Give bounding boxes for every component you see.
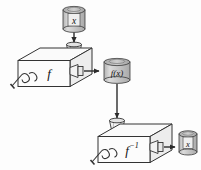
intermediate-canister-label: f(x)	[111, 68, 124, 78]
input-canister-label: x	[71, 16, 77, 26]
output-nozzle-inverse	[150, 141, 163, 154]
input-canister: x	[63, 6, 85, 32]
output-nozzle-forward	[70, 65, 83, 78]
machine-label-inverse-exponent: −1	[129, 141, 138, 150]
figure-canvas: x f	[0, 0, 201, 170]
output-canister-label: x	[185, 139, 190, 149]
output-canister: x	[179, 131, 197, 155]
intermediate-canister: f(x)	[104, 58, 130, 83]
function-machine-diagram: x f	[0, 0, 201, 170]
